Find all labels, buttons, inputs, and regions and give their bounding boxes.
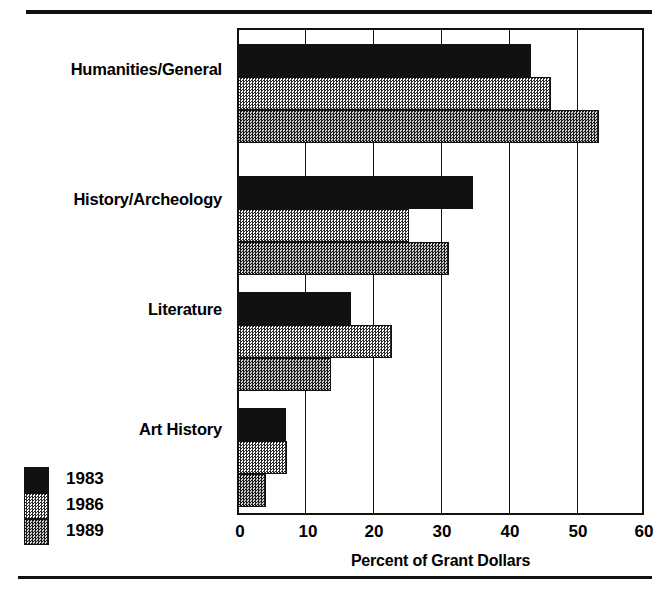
xtick-label-60: 60 bbox=[635, 522, 654, 542]
legend-label-1986: 1986 bbox=[66, 495, 104, 515]
bar-art-history-1989 bbox=[238, 474, 266, 507]
legend-label-1989: 1989 bbox=[66, 521, 104, 541]
x-axis-title: Percent of Grant Dollars bbox=[237, 552, 644, 570]
category-label-history-archeology: History/Archeology bbox=[73, 190, 222, 209]
bar-chart-figure: Humanities/General History/Archeology Li… bbox=[0, 0, 671, 605]
category-label-humanities-general: Humanities/General bbox=[71, 60, 222, 79]
bar-art-history-1986 bbox=[238, 441, 287, 474]
bar-literature-1989 bbox=[238, 358, 331, 391]
xtick-label-50: 50 bbox=[569, 522, 588, 542]
bar-humanities-general-1986 bbox=[238, 77, 551, 110]
bar-art-history-1983 bbox=[238, 408, 286, 441]
legend-swatch-1983-icon bbox=[24, 467, 49, 493]
legend-swatch-1986-icon bbox=[24, 493, 49, 519]
category-label-art-history: Art History bbox=[139, 420, 222, 439]
top-rule bbox=[26, 10, 652, 14]
bar-humanities-general-1989 bbox=[238, 110, 599, 143]
gridline-50 bbox=[577, 30, 578, 513]
bar-history-archeology-1983 bbox=[238, 176, 473, 209]
bottom-rule bbox=[18, 576, 652, 579]
bar-history-archeology-1989 bbox=[238, 242, 449, 275]
plot-area bbox=[237, 28, 644, 515]
xtick-label-0: 0 bbox=[235, 522, 244, 542]
bar-humanities-general-1983 bbox=[238, 44, 531, 77]
bar-history-archeology-1986 bbox=[238, 209, 409, 242]
xtick-label-10: 10 bbox=[299, 522, 318, 542]
legend-swatch-1989-icon bbox=[24, 519, 49, 545]
legend-label-1983: 1983 bbox=[66, 469, 104, 489]
xtick-label-40: 40 bbox=[501, 522, 520, 542]
xtick-label-30: 30 bbox=[433, 522, 452, 542]
category-label-literature: Literature bbox=[148, 300, 222, 319]
xtick-label-20: 20 bbox=[365, 522, 384, 542]
bar-literature-1983 bbox=[238, 292, 351, 325]
bar-literature-1986 bbox=[238, 325, 392, 358]
